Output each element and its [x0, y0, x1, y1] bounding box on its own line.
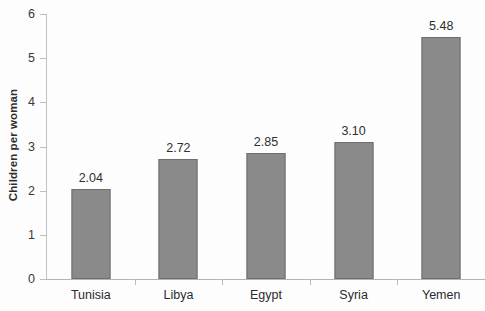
y-axis-tick-label: 6 — [28, 6, 35, 22]
y-axis-tick: 3 — [40, 147, 47, 148]
bar-value-label: 3.10 — [341, 124, 365, 138]
bar-group: 3.10Syria — [310, 14, 398, 279]
x-axis-category-label: Syria — [339, 287, 367, 303]
x-axis-category-label: Tunisia — [71, 287, 111, 303]
bar[interactable] — [71, 189, 110, 279]
plot-area: 0123456 2.04Tunisia2.72Libya2.85Egypt3.1… — [47, 14, 485, 279]
y-axis-tick-label: 2 — [28, 183, 35, 199]
bar[interactable] — [422, 37, 461, 279]
bar-value-label: 2.04 — [79, 171, 103, 185]
y-axis-tick: 6 — [40, 14, 47, 15]
bar-chart-figure: Children per woman 0123456 2.04Tunisia2.… — [0, 0, 485, 311]
y-axis-tick-label: 1 — [28, 227, 35, 243]
bar-group: 2.72Libya — [135, 14, 223, 279]
bar-group: 2.04Tunisia — [47, 14, 135, 279]
y-axis-tick: 2 — [40, 191, 47, 192]
bar[interactable] — [334, 142, 373, 279]
y-axis-tick: 1 — [40, 235, 47, 236]
y-axis-tick: 0 — [40, 279, 47, 280]
x-axis-category-label: Yemen — [422, 287, 460, 303]
x-axis-line — [46, 279, 485, 280]
bar-value-label: 5.48 — [429, 19, 453, 33]
y-axis-title: Children per woman — [2, 0, 24, 290]
x-axis-category-label: Egypt — [250, 287, 282, 303]
bar[interactable] — [159, 159, 198, 279]
bar-value-label: 2.85 — [254, 135, 278, 149]
x-axis-separator — [310, 279, 311, 285]
y-axis-tick-label: 4 — [28, 94, 35, 110]
y-axis-tick-label: 0 — [28, 271, 35, 287]
x-axis-separator — [222, 279, 223, 285]
y-axis-tick: 4 — [40, 102, 47, 103]
bar[interactable] — [246, 153, 285, 279]
bar-group: 5.48Yemen — [397, 14, 485, 279]
x-axis-separator — [397, 279, 398, 285]
bar-group: 2.85Egypt — [222, 14, 310, 279]
x-axis-separator — [135, 279, 136, 285]
y-axis-title-text: Children per woman — [7, 89, 19, 201]
y-axis-tick-label: 3 — [28, 139, 35, 155]
x-axis-category-label: Libya — [163, 287, 193, 303]
bar-value-label: 2.72 — [166, 141, 190, 155]
y-axis-tick-label: 5 — [28, 50, 35, 66]
y-axis-tick: 5 — [40, 58, 47, 59]
